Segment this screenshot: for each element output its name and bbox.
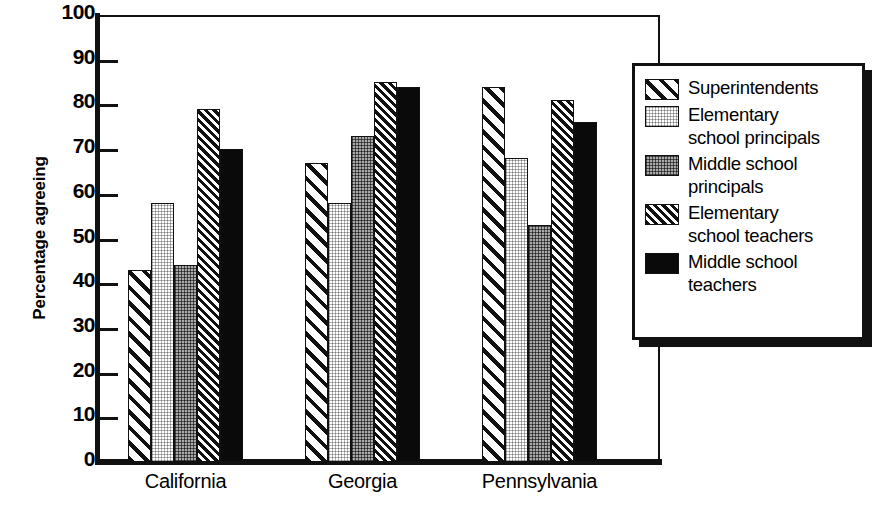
legend-item[interactable]: Middle schoolprincipals (645, 152, 854, 198)
bar[interactable] (482, 87, 505, 462)
legend-item-label: Middle schoolprincipals (688, 152, 797, 198)
bar[interactable] (374, 82, 397, 462)
y-tick-mark (100, 239, 118, 242)
bar-group-bars (128, 15, 243, 462)
bar-group-bars (305, 15, 420, 462)
y-tick-mark (100, 373, 118, 376)
bars-layer (100, 15, 662, 462)
x-category-label: Pennsylvania (442, 470, 637, 493)
y-tick-mark (100, 149, 118, 152)
y-tick-label: 60 (33, 179, 95, 203)
bar[interactable] (351, 136, 374, 462)
bar[interactable] (551, 100, 574, 462)
y-tick-label: 20 (33, 358, 95, 382)
bar-group (128, 15, 243, 462)
bar[interactable] (128, 270, 151, 462)
y-tick-label: 80 (33, 89, 95, 113)
bar[interactable] (197, 109, 220, 462)
y-tick-mark (100, 194, 118, 197)
bar[interactable] (220, 149, 243, 462)
legend-item[interactable]: Elementaryschool principals (645, 103, 854, 149)
bar-group-bars (482, 15, 597, 462)
bar[interactable] (305, 163, 328, 462)
y-tick-mark (100, 417, 118, 420)
bar[interactable] (174, 265, 197, 462)
y-tick-mark (100, 60, 118, 63)
legend-swatch-icon (645, 79, 679, 100)
legend-item-label: Elementaryschool principals (688, 103, 820, 149)
bar[interactable] (505, 158, 528, 462)
bar[interactable] (574, 122, 597, 462)
legend-item[interactable]: Middle schoolteachers (645, 250, 854, 296)
y-tick-label: 10 (33, 402, 95, 426)
bar-group (305, 15, 420, 462)
y-tick-label: 100 (33, 0, 95, 24)
y-tick-label: 70 (33, 134, 95, 158)
x-category-label: Georgia (265, 470, 460, 493)
legend-swatch-icon (645, 155, 679, 176)
legend-item-label: Middle schoolteachers (688, 250, 797, 296)
bar[interactable] (151, 203, 174, 462)
y-tick-mark (100, 328, 118, 331)
y-tick-label: 40 (33, 268, 95, 292)
x-category-label: California (88, 470, 283, 493)
y-tick-label: 50 (33, 224, 95, 248)
legend-item-label: Elementaryschool teachers (688, 201, 813, 247)
legend: SuperintendentsElementaryschool principa… (632, 63, 865, 340)
y-tick-mark (100, 283, 118, 286)
y-tick-label: 0 (33, 447, 95, 471)
y-tick-label: 30 (33, 313, 95, 337)
bar[interactable] (397, 87, 420, 462)
legend-item[interactable]: Superintendents (645, 76, 854, 100)
y-tick-mark (100, 104, 118, 107)
legend-swatch-icon (645, 204, 679, 225)
bar-group (482, 15, 597, 462)
bar[interactable] (528, 225, 551, 462)
bar-chart: Percentage agreeing 01020304050607080901… (0, 0, 876, 516)
y-tick-label: 90 (33, 45, 95, 69)
bar[interactable] (328, 203, 351, 462)
legend-swatch-icon (645, 253, 679, 274)
y-axis-tick-labels: 0102030405060708090100 (0, 0, 95, 516)
legend-swatch-icon (645, 106, 679, 127)
legend-item[interactable]: Elementaryschool teachers (645, 201, 854, 247)
legend-item-label: Superintendents (688, 76, 818, 99)
